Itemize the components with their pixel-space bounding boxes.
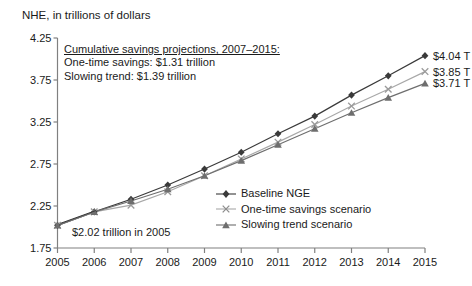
x-tick-label: 2015 xyxy=(402,256,448,268)
chart-legend: Baseline NGE One-time savings scenario S… xyxy=(215,186,371,233)
series-end-label: $3.71 T xyxy=(433,77,470,89)
series-end-label: $4.04 T xyxy=(433,50,470,62)
y-tick-label: 3.25 xyxy=(18,116,52,128)
chart-container: NHE, in trillions of dollars Cumulative … xyxy=(0,0,472,286)
y-tick-label: 2.25 xyxy=(18,200,52,212)
y-tick-label: 3.75 xyxy=(18,74,52,86)
legend-label-baseline: Baseline NGE xyxy=(241,186,310,202)
plot-area xyxy=(0,0,472,286)
y-tick-label: 1.75 xyxy=(18,242,52,254)
diamond-marker-icon xyxy=(215,188,237,200)
legend-label-one-time: One-time savings scenario xyxy=(241,202,371,218)
y-tick-label: 2.75 xyxy=(18,158,52,170)
triangle-marker-icon xyxy=(215,219,237,231)
legend-item-baseline: Baseline NGE xyxy=(215,186,371,202)
legend-item-slowing: Slowing trend scenario xyxy=(215,217,371,233)
series-end-label: $3.85 T xyxy=(433,66,470,78)
legend-item-one-time: One-time savings scenario xyxy=(215,202,371,218)
y-tick-label: 4.25 xyxy=(18,32,52,44)
legend-label-slowing: Slowing trend scenario xyxy=(241,217,352,233)
x-marker-icon xyxy=(215,203,237,215)
